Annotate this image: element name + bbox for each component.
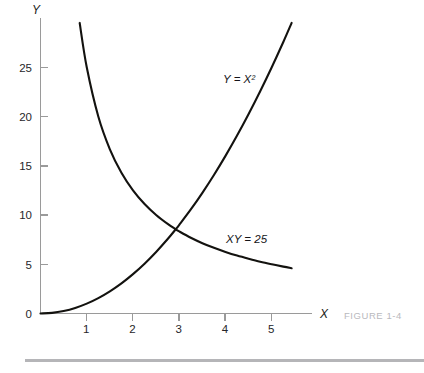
bottom-divider xyxy=(25,359,424,362)
y-tick-label-0: 0 xyxy=(26,308,32,320)
x-tick-label-2: 2 xyxy=(129,323,135,335)
figure-caption: FIGURE 1-4 xyxy=(344,310,402,321)
parabola-label: Y = X² xyxy=(223,73,256,85)
hyperbola-label: XY = 25 xyxy=(225,233,268,245)
figure-container: 0 5 10 15 20 25 1 2 3 4 5 Y X Y = X² XY … xyxy=(0,0,424,373)
y-tick-label-20: 20 xyxy=(19,111,32,123)
y-tick-label-15: 15 xyxy=(19,160,32,172)
x-tick-label-5: 5 xyxy=(268,323,274,335)
y-tick-label-25: 25 xyxy=(19,62,32,74)
x-tick-label-1: 1 xyxy=(83,323,89,335)
curve-parabola xyxy=(41,23,292,314)
y-tick-label-10: 10 xyxy=(19,209,32,221)
x-axis-label: X xyxy=(319,307,329,321)
y-tick-label-5: 5 xyxy=(26,259,32,271)
y-axis-label: Y xyxy=(32,3,41,17)
x-tick-label-3: 3 xyxy=(176,323,182,335)
x-tick-label-4: 4 xyxy=(222,323,229,335)
curve-hyperbola xyxy=(80,23,292,268)
